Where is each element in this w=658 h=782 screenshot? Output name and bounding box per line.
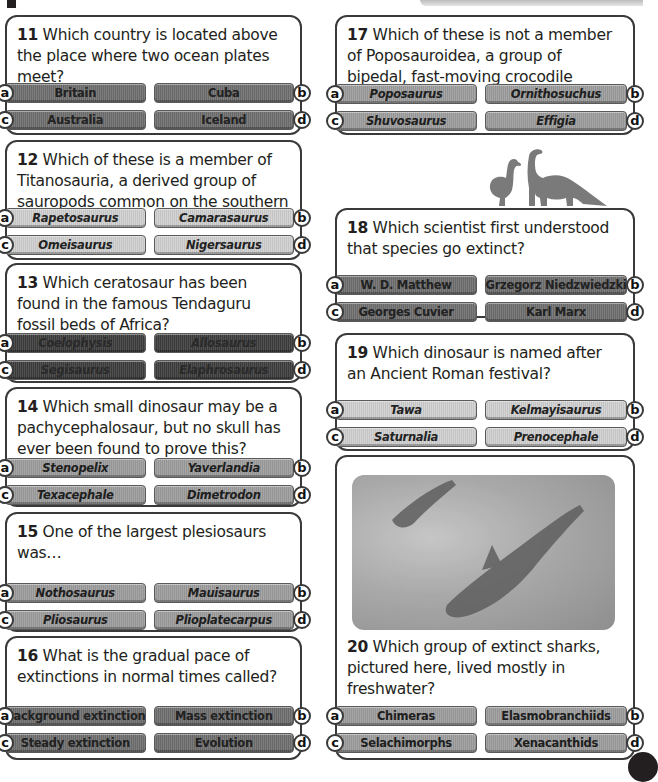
answer-option-c[interactable]: Shuvosaurus <box>335 111 477 131</box>
answer-letter-d-icon: d <box>626 112 644 130</box>
answer-option-a[interactable]: Coelophysis <box>5 333 146 353</box>
answer-option-d[interactable]: Plioplatecarpus <box>154 610 295 630</box>
answer-letter-c-icon: c <box>326 428 344 446</box>
answer-option-a[interactable]: Rapetosaurus <box>5 208 146 228</box>
answer-letter-b-icon: b <box>293 707 311 725</box>
shark-photo <box>352 475 615 630</box>
answer-letter-b-icon: b <box>626 401 644 419</box>
question-body: Which scientist first understood that sp… <box>347 219 609 258</box>
answer-letter-b-icon: b <box>626 85 644 103</box>
question-body: What is the gradual pace of extinctions … <box>17 647 277 686</box>
answer-option-d[interactable]: Prenocephale <box>485 427 627 447</box>
question-body: One of the largest plesiosaurs was… <box>17 523 266 562</box>
answer-option-d[interactable]: Nigersaurus <box>154 235 295 255</box>
answer-letter-d-icon: d <box>626 303 644 321</box>
question-text: 15 One of the largest plesiosaurs was… <box>17 522 290 564</box>
answer-letter-b-icon: b <box>293 84 311 102</box>
answer-letter-d-icon: d <box>293 111 311 129</box>
answer-letter-b-icon: b <box>293 459 311 477</box>
answer-option-a[interactable]: Background extinction <box>5 706 146 726</box>
answer-letter-a-icon: a <box>326 707 344 725</box>
question-number: 18 <box>347 219 368 237</box>
answer-option-a[interactable]: W. D. Matthew <box>335 275 477 295</box>
question-number: 20 <box>347 638 368 656</box>
answer-option-a[interactable]: Nothosaurus <box>5 583 146 603</box>
question-number: 16 <box>17 647 38 665</box>
page-number-dot <box>628 752 658 782</box>
answer-letter-b-icon: b <box>293 334 311 352</box>
answer-option-b[interactable]: Mass extinction <box>154 706 295 726</box>
answer-option-a[interactable]: Tawa <box>335 400 477 420</box>
question-number: 15 <box>17 523 38 541</box>
answer-option-c[interactable]: Georges Cuvier <box>335 302 477 322</box>
question-number: 12 <box>17 151 38 169</box>
answer-option-c[interactable]: Australia <box>5 110 146 130</box>
question-text: 14 Which small dinosaur may be a pachyce… <box>17 397 290 460</box>
answer-option-b[interactable]: Ornithosuchus <box>485 84 627 104</box>
answer-letter-d-icon: d <box>293 486 311 504</box>
answer-letter-b-icon: b <box>626 707 644 725</box>
answer-letter-c-icon: c <box>326 112 344 130</box>
answer-letter-d-icon: d <box>626 428 644 446</box>
dodo-sauropod-silhouette-icon <box>485 148 610 208</box>
question-body: Which ceratosaur has been found in the f… <box>17 274 251 334</box>
page-corner-mark <box>7 0 16 8</box>
answer-option-c[interactable]: Selachimorphs <box>335 733 477 753</box>
answer-option-c[interactable]: Saturnalia <box>335 427 477 447</box>
answer-option-b[interactable]: Mauisaurus <box>154 583 295 603</box>
answer-option-a[interactable]: Stenopelix <box>5 458 146 478</box>
answer-option-c[interactable]: Texacephale <box>5 485 146 505</box>
answer-option-b[interactable]: Yaverlandia <box>154 458 295 478</box>
answer-option-a[interactable]: Poposaurus <box>335 84 477 104</box>
answer-letter-d-icon: d <box>293 236 311 254</box>
sauropod-icon <box>528 149 608 206</box>
question-text: 11 Which country is located above the pl… <box>17 25 290 88</box>
answer-option-b[interactable]: Camarasaurus <box>154 208 295 228</box>
answer-letter-d-icon: d <box>626 734 644 752</box>
question-body: Which group of extinct sharks, pictured … <box>347 638 600 698</box>
answer-letter-a-icon: a <box>326 401 344 419</box>
question-number: 19 <box>347 344 368 362</box>
answer-letter-c-icon: c <box>326 734 344 752</box>
question-text: 19 Which dinosaur is named after an Anci… <box>347 343 623 385</box>
header-bar <box>420 0 643 6</box>
answer-option-b[interactable]: Kelmayisaurus <box>485 400 627 420</box>
answer-letter-a-icon: a <box>326 85 344 103</box>
answer-letter-d-icon: d <box>293 361 311 379</box>
answer-option-d[interactable]: Effigia <box>485 111 627 131</box>
answer-option-c[interactable]: Segisaurus <box>5 360 146 380</box>
answer-option-c[interactable]: Omeisaurus <box>5 235 146 255</box>
answer-option-b[interactable]: Cuba <box>154 83 295 103</box>
answer-option-d[interactable]: Karl Marx <box>485 302 627 322</box>
answer-option-a[interactable]: Chimeras <box>335 706 477 726</box>
answer-option-b[interactable]: Allosaurus <box>154 333 295 353</box>
answer-option-b[interactable]: Elasmobranchiids <box>485 706 627 726</box>
answer-letter-b-icon: b <box>626 276 644 294</box>
answer-letter-c-icon: c <box>326 303 344 321</box>
answer-option-d[interactable]: Iceland <box>154 110 295 130</box>
answer-option-b[interactable]: Grzegorz Niedzwiedzki <box>485 275 627 295</box>
question-text: 13 Which ceratosaur has been found in th… <box>17 273 290 336</box>
question-body: Which dinosaur is named after an Ancient… <box>347 344 602 383</box>
question-number: 17 <box>347 26 368 44</box>
question-number: 11 <box>17 26 38 44</box>
answer-option-c[interactable]: Steady extinction <box>5 733 146 753</box>
answer-letter-d-icon: d <box>293 611 311 629</box>
answer-option-d[interactable]: Xenacanthids <box>485 733 627 753</box>
answer-letter-b-icon: b <box>293 209 311 227</box>
question-number: 14 <box>17 398 38 416</box>
answer-letter-b-icon: b <box>293 584 311 602</box>
answer-option-d[interactable]: Evolution <box>154 733 295 753</box>
question-number: 13 <box>17 274 38 292</box>
question-text: 18 Which scientist first understood that… <box>347 218 623 260</box>
question-body: Which country is located above the place… <box>17 26 278 86</box>
answer-option-d[interactable]: Dimetrodon <box>154 485 295 505</box>
question-text: 20 Which group of extinct sharks, pictur… <box>347 637 623 700</box>
answer-letter-d-icon: d <box>293 734 311 752</box>
answer-letter-a-icon: a <box>326 276 344 294</box>
answer-option-d[interactable]: Elaphrosaurus <box>154 360 295 380</box>
answer-option-c[interactable]: Pliosaurus <box>5 610 146 630</box>
answer-option-a[interactable]: Britain <box>5 83 146 103</box>
question-body: Which small dinosaur may be a pachycepha… <box>17 398 281 458</box>
dodo-icon <box>490 159 521 206</box>
